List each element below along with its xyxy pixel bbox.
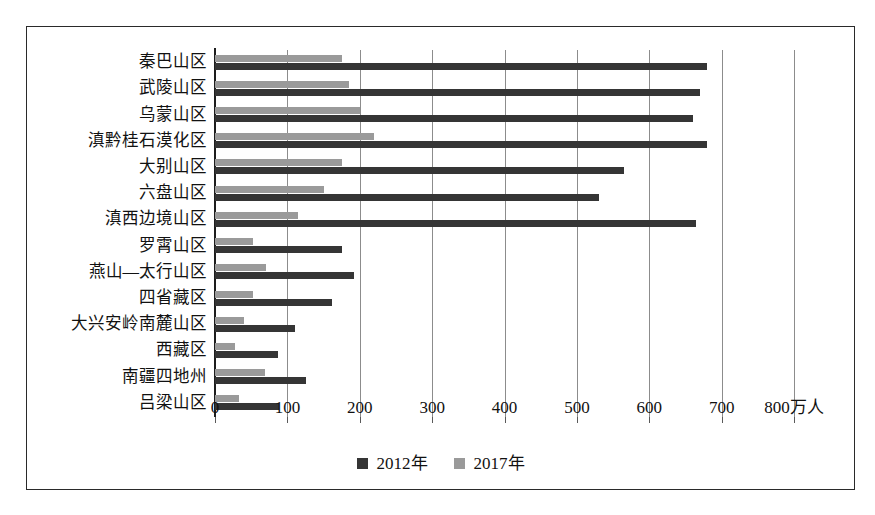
legend-label: 2017年 — [474, 455, 525, 472]
tick-400 — [505, 417, 506, 423]
legend-item[interactable]: 2012年 — [357, 455, 428, 472]
category-label: 大别山区 — [139, 159, 207, 176]
tick-200 — [360, 417, 361, 423]
bar-group — [215, 181, 794, 207]
chart-frame: 秦巴山区武陵山区乌蒙山区滇黔桂石漠化区大别山区六盘山区滇西边境山区罗霄山区燕山—… — [26, 26, 855, 490]
dark-square-swatch — [357, 458, 368, 469]
bar-2012 — [215, 89, 700, 96]
bar-group — [215, 76, 794, 102]
bar-2012 — [215, 115, 693, 122]
bar-group — [215, 102, 794, 128]
bar-2012 — [215, 377, 306, 384]
tick-label-500: 500 — [564, 399, 590, 416]
bar-2017 — [215, 343, 235, 350]
bar-group — [215, 286, 794, 312]
bar-2017 — [215, 238, 253, 245]
tick-label-300: 300 — [419, 399, 445, 416]
bar-2012 — [215, 403, 279, 410]
category-label: 武陵山区 — [139, 80, 207, 97]
category-label: 罗霄山区 — [139, 238, 207, 255]
bar-2017 — [215, 159, 342, 166]
tick-700 — [722, 417, 723, 423]
legend-label: 2012年 — [377, 455, 428, 472]
tick-label-800: 800万人 — [764, 399, 824, 416]
category-axis-labels: 秦巴山区武陵山区乌蒙山区滇黔桂石漠化区大别山区六盘山区滇西边境山区罗霄山区燕山—… — [27, 50, 215, 417]
chart-legend: 2012年2017年 — [27, 455, 854, 472]
bar-2017 — [215, 107, 360, 114]
tick-300 — [432, 417, 433, 423]
bar-2012 — [215, 351, 278, 358]
bar-2012 — [215, 220, 696, 227]
bar-2017 — [215, 186, 324, 193]
plot-area — [215, 50, 794, 417]
tick-0 — [215, 417, 216, 423]
bar-2012 — [215, 325, 295, 332]
bar-2012 — [215, 246, 342, 253]
bar-2017 — [215, 264, 266, 271]
bar-group — [215, 312, 794, 338]
category-label: 燕山—太行山区 — [89, 264, 208, 281]
tick-label-100: 100 — [275, 399, 301, 416]
bar-2012 — [215, 272, 354, 279]
category-label: 大兴安岭南麓山区 — [71, 316, 207, 333]
bar-2017 — [215, 133, 374, 140]
category-label: 秦巴山区 — [139, 54, 207, 71]
bar-group — [215, 129, 794, 155]
category-label: 南疆四地州 — [122, 369, 207, 386]
category-label: 滇西边境山区 — [105, 211, 207, 228]
bar-2012 — [215, 194, 599, 201]
category-label: 西藏区 — [156, 342, 207, 359]
category-label: 乌蒙山区 — [139, 107, 207, 124]
category-label: 滇黔桂石漠化区 — [88, 133, 207, 150]
gridline-800 — [794, 50, 795, 417]
legend-item[interactable]: 2017年 — [454, 455, 525, 472]
bar-2012 — [215, 63, 707, 70]
bar-2012 — [215, 141, 707, 148]
tick-100 — [287, 417, 288, 423]
tick-label-700: 700 — [709, 399, 735, 416]
bar-2017 — [215, 55, 342, 62]
tick-label-0: 0 — [211, 399, 220, 416]
bar-group — [215, 234, 794, 260]
category-label: 四省藏区 — [139, 290, 207, 307]
bar-group — [215, 365, 794, 391]
bar-group — [215, 260, 794, 286]
light-square-swatch — [454, 458, 465, 469]
bar-group — [215, 155, 794, 181]
bar-2017 — [215, 369, 265, 376]
tick-500 — [577, 417, 578, 423]
tick-800 — [794, 417, 795, 423]
bar-2017 — [215, 291, 253, 298]
bar-2017 — [215, 212, 298, 219]
category-label: 六盘山区 — [139, 185, 207, 202]
tick-label-600: 600 — [637, 399, 663, 416]
bar-group — [215, 338, 794, 364]
bar-2017 — [215, 81, 349, 88]
bar-2017 — [215, 317, 244, 324]
bar-2012 — [215, 167, 624, 174]
tick-label-400: 400 — [492, 399, 518, 416]
bar-2012 — [215, 299, 332, 306]
tick-label-200: 200 — [347, 399, 373, 416]
category-label: 吕梁山区 — [139, 395, 207, 412]
bar-group — [215, 50, 794, 76]
tick-600 — [649, 417, 650, 423]
bar-group — [215, 207, 794, 233]
